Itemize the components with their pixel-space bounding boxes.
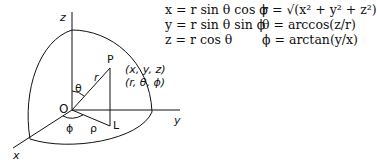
equation-theta: θ = arccos(z/r) [262, 19, 356, 32]
equation-phi: ϕ = arctan(y/x) [262, 34, 358, 47]
point-p-label: P [107, 54, 114, 65]
rho-label: ρ [90, 123, 97, 134]
equation-y: y = r sin θ sin ϕ [165, 19, 265, 32]
spherical-coords-label: (r, θ, ϕ) [125, 77, 165, 88]
cartesian-coords-label: (x, y, z) [125, 64, 166, 75]
equation-z: z = r cos θ [165, 34, 232, 47]
phi-label: ϕ [66, 123, 73, 134]
y-axis-label: y [174, 115, 181, 126]
radius-label: r [94, 72, 99, 83]
origin-label: O [59, 103, 68, 115]
x-axis-label: x [13, 150, 20, 161]
point-l-label: L [113, 120, 119, 131]
theta-label: θ [75, 83, 82, 94]
equation-r: r = √(x² + y² + z²) [262, 4, 377, 17]
z-axis-label: z [60, 12, 66, 23]
equation-x: x = r sin θ cos ϕ [165, 4, 268, 17]
